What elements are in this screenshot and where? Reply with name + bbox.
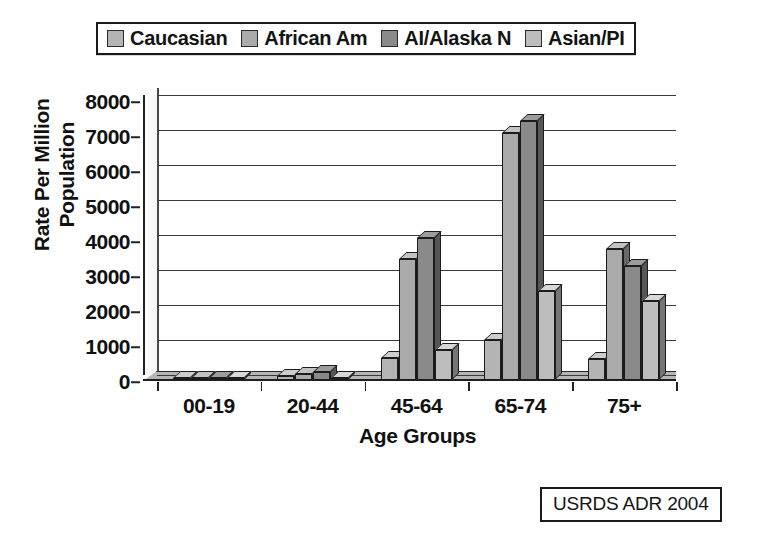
bar-face: [484, 340, 501, 380]
bar-group: [588, 93, 660, 380]
bar-group: [277, 93, 349, 380]
bar-face: [277, 376, 294, 380]
y-axis-tick-label: 5000: [85, 195, 130, 219]
x-axis-tick-mark: [261, 382, 263, 391]
bar-face: [538, 291, 555, 380]
y-axis-tick-label: 1000: [85, 335, 130, 359]
bar-groups: [143, 88, 676, 380]
bar: [295, 374, 312, 380]
bar-side: [555, 284, 562, 380]
bar-face: [435, 350, 452, 380]
x-axis-tick-label: 75+: [607, 394, 641, 418]
bar-face: [173, 378, 190, 380]
y-axis-tick-label: 2000: [85, 300, 130, 324]
bar-face: [642, 301, 659, 380]
y-axis-tick-mark: [131, 381, 140, 383]
bar-face: [209, 378, 226, 380]
bar: [606, 249, 623, 380]
bar-face: [502, 133, 519, 380]
y-axis-tick-label: 3000: [85, 265, 130, 289]
x-axis-tick-mark: [365, 382, 367, 391]
bar: [191, 378, 208, 380]
bar: [642, 301, 659, 380]
legend-label-caucasian: Caucasian: [130, 28, 227, 48]
y-axis-tick-mark: [131, 136, 140, 138]
y-axis-tick-mark: [131, 311, 140, 313]
bar-face: [331, 378, 348, 380]
x-axis-tick-mark: [572, 382, 574, 391]
bar: [520, 121, 537, 380]
y-axis-tick-mark: [131, 206, 140, 208]
x-axis-tick-mark: [676, 382, 678, 391]
y-axis-tick-label: 8000: [85, 90, 130, 114]
bar-face: [417, 238, 434, 380]
y-axis-tick-mark: [131, 101, 140, 103]
legend-swatch-ai-alaska-n: [381, 30, 398, 47]
bar: [502, 133, 519, 380]
bar: [588, 359, 605, 380]
y-axis-tick-mark: [131, 171, 140, 173]
x-axis-tick-label: 45-64: [391, 394, 443, 418]
bar-group: [484, 93, 556, 380]
bar: [484, 340, 501, 380]
bar-side: [452, 343, 459, 380]
legend-swatch-caucasian: [107, 30, 124, 47]
bar-face: [313, 372, 330, 380]
bar: [227, 378, 244, 380]
y-axis-tick-mark: [131, 346, 140, 348]
legend-label-asian-pi: Asian/PI: [548, 28, 625, 48]
bar: [313, 372, 330, 380]
bar: [399, 259, 416, 380]
x-axis-tick-label: 65-74: [494, 394, 546, 418]
bar-group: [381, 93, 453, 380]
source-citation: USRDS ADR 2004: [540, 487, 722, 522]
legend-item: African Am: [241, 28, 367, 48]
x-axis-tick-label: 00-19: [183, 394, 235, 418]
bar-face: [191, 378, 208, 380]
legend-item: Asian/PI: [525, 28, 625, 48]
legend-label-ai-alaska-n: AI/Alaska N: [404, 28, 511, 48]
bar: [538, 291, 555, 380]
x-axis-tick-mark: [468, 382, 470, 391]
y-axis-tick-label: 0: [119, 370, 130, 394]
x-axis-title-label: Age Groups: [359, 424, 476, 447]
bar-face: [606, 249, 623, 380]
bar-face: [520, 121, 537, 380]
x-axis-tick-mark: [157, 382, 159, 391]
bar-group: [173, 93, 245, 380]
x-axis: 00-1920-4445-6465-7475+: [143, 382, 676, 422]
y-axis-tick-mark: [131, 241, 140, 243]
bar: [624, 266, 641, 380]
y-axis: 010002000300040005000600070008000: [40, 88, 140, 380]
legend-label-african-am: African Am: [264, 28, 367, 48]
bar-face: [624, 266, 641, 380]
y-axis-tick-label: 4000: [85, 230, 130, 254]
bar-face: [588, 359, 605, 380]
legend-item: AI/Alaska N: [381, 28, 511, 48]
y-axis-tick-mark: [131, 276, 140, 278]
x-axis-tick-label: 20-44: [287, 394, 339, 418]
bar: [277, 376, 294, 380]
bar: [417, 238, 434, 380]
legend-item: Caucasian: [107, 28, 227, 48]
bar: [381, 358, 398, 380]
bar-face: [227, 378, 244, 380]
y-axis-tick-label: 7000: [85, 125, 130, 149]
x-axis-title: Age Groups: [0, 424, 771, 448]
y-axis-tick-label: 6000: [85, 160, 130, 184]
legend-swatch-african-am: [241, 30, 258, 47]
bar: [435, 350, 452, 380]
legend-swatch-asian-pi: [525, 30, 542, 47]
bar: [173, 378, 190, 380]
bar-face: [381, 358, 398, 380]
bar-side: [659, 294, 666, 380]
chart-legend: Caucasian African Am AI/Alaska N Asian/P…: [96, 22, 636, 55]
bar: [331, 378, 348, 380]
bar: [209, 378, 226, 380]
bar-face: [399, 259, 416, 380]
bar-face: [295, 374, 312, 380]
